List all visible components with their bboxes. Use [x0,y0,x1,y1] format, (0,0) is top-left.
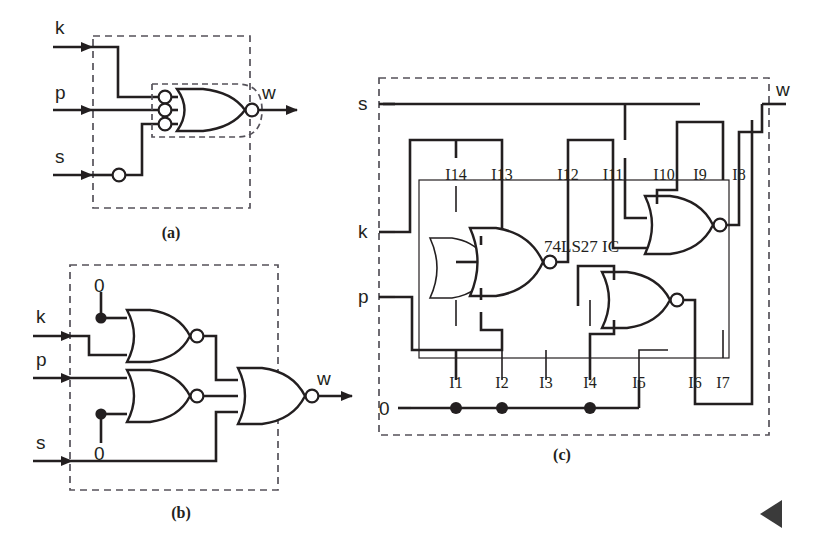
label-k-a: k [55,17,65,38]
label-s-a: s [55,146,65,167]
pin-label-i11: I11 [603,166,624,183]
left-pointing-triangle-icon [760,500,782,528]
label-p-b: p [36,349,47,370]
label-s-c: s [358,93,368,114]
pin-label-i9: I9 [693,166,706,183]
pin-i10-stem [625,158,647,218]
label-w-b: w [316,368,331,389]
pin-label-i4: I4 [583,374,596,391]
label-s-b: s [36,432,46,453]
pin-label-i13: I13 [491,166,512,183]
label-zero-c: 0 [379,398,390,419]
wire-k-route-b [72,336,127,355]
label-w-a: w [261,82,276,103]
panel-b [33,265,352,490]
circuit-figure: k p s w (a) 0 0 k p s w (b) s k p w 0 74… [0,0,813,538]
wire-gatemid-out-to-i6-c [683,300,695,380]
caption-a: (a) [162,224,181,242]
nor-gate-right-c [645,196,713,254]
junction-dot-i2-c [496,402,508,414]
figure-page: k p s w (a) 0 0 k p s w (b) s k p w 0 74… [0,0,813,538]
pin-label-i14: I14 [445,166,466,183]
junction-dot-i4-c [584,402,596,414]
input-bubble-3-a [159,118,172,131]
input-bubble-2-a [159,104,172,117]
input-bubble-1-a [159,91,172,104]
panel-a [53,36,297,208]
wire-i14-to-i13-top [456,140,502,158]
label-zero-top-b: 0 [94,275,105,296]
nor-gate-middle-b [127,370,190,422]
label-zero-bot-b: 0 [94,443,105,464]
nor-output-bubble-left-c [544,256,557,269]
wire-p-route-c [395,297,456,350]
pin-label-i2: I2 [495,374,508,391]
pin-label-i1: I1 [449,374,462,391]
label-k-b: k [36,306,46,327]
or-gate-body-a [177,89,245,131]
output-bubble-a [246,104,259,117]
pin-label-i7: I7 [716,374,729,391]
nor-gate-middle-c [602,272,670,328]
label-p-c: p [358,286,369,307]
chip-label: 74LS27 IC [544,237,619,256]
nor-output-bubble-top-b [191,330,204,343]
pin-label-i8: I8 [732,166,745,183]
pin-i12-stem [568,140,613,158]
label-k-c: k [358,221,368,242]
inverter-bubble-s-a [113,169,126,182]
nor-gate-top-b [127,310,190,362]
pin-label-i10: I10 [653,166,674,183]
pin-label-i5: I5 [632,374,645,391]
junction-dot-i1-c [450,402,462,414]
wire-k-route-a [92,47,158,97]
caption-c: (c) [553,446,571,464]
pin-label-i12: I12 [557,166,578,183]
caption-b: (b) [171,504,191,522]
pin-label-i3: I3 [539,374,552,391]
pin-label-i6: I6 [688,374,701,391]
wire-k-route-c [395,140,456,232]
nor-output-bubble-middle-c [671,294,684,307]
nor-output-bubble-out-b [306,390,319,403]
pin-i8-stem [739,104,762,158]
label-w-c: w [775,79,790,100]
nor-output-bubble-right-c [714,219,727,232]
nor-output-bubble-middle-b [191,390,204,403]
label-p-a: p [55,82,66,103]
nor-gate-output-b [238,368,305,424]
wire-i1-branch-c [456,312,502,350]
wire-top-nor-out-b [203,336,238,380]
wire-s-route-a2 [126,124,158,175]
